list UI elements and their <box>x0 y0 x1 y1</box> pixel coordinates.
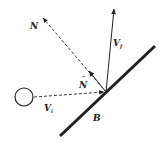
bar <box>60 46 155 136</box>
final-velocity-arrow <box>106 9 114 92</box>
final-velocity-label: Vf <box>113 38 123 49</box>
unit-normal-arrow <box>89 71 106 92</box>
ball <box>15 88 33 106</box>
incident-velocity-label: Vi <box>44 103 53 114</box>
normal-line-label: N <box>29 21 39 31</box>
reflection-diagram: N Vf N ^ Vi B <box>0 0 166 147</box>
unit-normal-hat: ^ <box>81 74 86 81</box>
bar-label: B <box>92 113 101 123</box>
unit-normal-label: N <box>78 80 88 90</box>
incident-velocity-arrow <box>34 92 104 97</box>
